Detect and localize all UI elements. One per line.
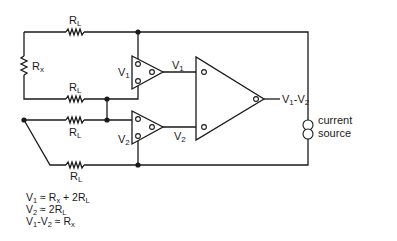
equation-1: V1 ≈ Rx + 2RL — [26, 191, 90, 203]
label-diff-out: V1-V2 — [282, 93, 309, 105]
buffer-amp-2 — [132, 111, 163, 144]
node-mid-lower — [104, 117, 109, 122]
equation-2: V2 ≈ 2RL — [26, 203, 66, 215]
top-wire — [24, 29, 308, 122]
equation-3: V1-V2 ≈ Rx — [26, 215, 75, 227]
node-bottom — [135, 162, 140, 167]
node-mid-upper — [104, 96, 109, 101]
resistor-rl-top — [66, 29, 84, 35]
diff-amp — [196, 57, 264, 140]
label-rl-top: RL — [69, 14, 81, 26]
current-source-line2: source — [318, 127, 352, 140]
resistor-rx — [21, 56, 27, 75]
buffer-amp-1 — [132, 56, 163, 89]
current-source-line1: current — [318, 114, 352, 127]
node-left — [21, 117, 26, 122]
label-rx: Rx — [32, 60, 44, 72]
label-amp2-out: V2 — [174, 130, 186, 142]
label-rl-bottom: RL — [70, 170, 82, 182]
node-top — [135, 29, 140, 34]
resistor-rl-third — [66, 117, 84, 123]
label-current-source: current source — [318, 114, 352, 140]
label-amp1-out: V1 — [172, 59, 184, 71]
third-wire — [24, 117, 132, 123]
label-rl-third: RL — [69, 126, 81, 138]
label-rl-second: RL — [69, 81, 81, 93]
current-source-icon — [303, 120, 313, 139]
resistor-rl-bottom — [66, 162, 84, 168]
resistor-rl-second — [66, 96, 84, 102]
label-amp2: V2 — [118, 133, 130, 145]
label-amp1: V1 — [118, 66, 130, 78]
